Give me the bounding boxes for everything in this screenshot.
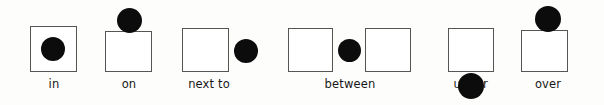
preposition-label-next-to: next to <box>168 78 250 91</box>
preposition-label-over: over <box>504 78 592 91</box>
circle-shape <box>234 39 258 63</box>
square-shape-left <box>288 28 333 72</box>
circle-shape <box>117 8 142 33</box>
preposition-group-next-to: next to <box>178 0 276 105</box>
preposition-label-in: in <box>10 78 98 91</box>
circle-shape <box>338 39 361 62</box>
preposition-group-in: in <box>0 0 100 105</box>
preposition-group-over: over <box>516 0 604 105</box>
square-shape <box>105 31 152 72</box>
prepositions-diagram: in on next to between under over <box>0 0 604 105</box>
preposition-group-between: between <box>286 0 414 105</box>
preposition-label-on: on <box>88 78 170 91</box>
preposition-label-between: between <box>296 78 404 91</box>
square-shape <box>521 30 568 72</box>
square-shape <box>182 28 229 72</box>
square-shape-right <box>365 28 411 72</box>
circle-shape <box>535 6 561 32</box>
preposition-group-on: on <box>100 0 178 105</box>
square-shape <box>448 28 494 72</box>
circle-shape <box>458 73 484 99</box>
circle-shape <box>41 37 65 61</box>
